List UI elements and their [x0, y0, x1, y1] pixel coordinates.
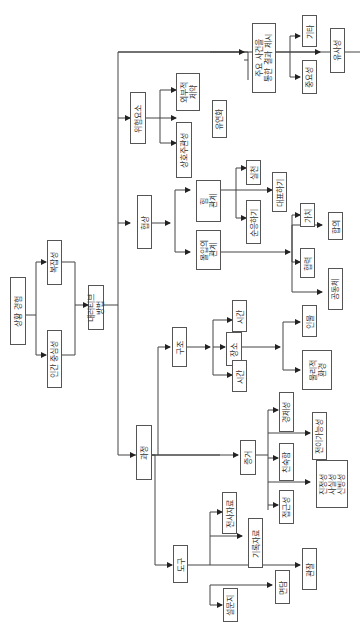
node-root: 상황 경험 [10, 277, 26, 345]
node-evidence: 증거 [240, 440, 256, 475]
node-persuasiveness: 경제성 [279, 392, 294, 432]
node-observation: 관찰 [302, 548, 317, 590]
node-person: 인물 [302, 305, 317, 337]
node-time-lower: 시간 [232, 360, 247, 392]
node-immersion-relation: 몰입의 관계 [196, 230, 221, 270]
node-structure: 구조 [172, 327, 187, 367]
node-transferability: 전이가능성 [312, 412, 327, 460]
node-community: 공동체 [328, 268, 343, 310]
node-power-relation: 힘 관계 [196, 180, 221, 222]
node-similarity: 유사성 [330, 28, 345, 73]
node-tools: 도구 [173, 545, 188, 583]
node-key-events: 주요 사건을 통한 결과 제시 [252, 23, 276, 93]
node-interdependence: 상호주관성 [176, 122, 192, 178]
node-narrative-method: 내러티브 방법 [88, 285, 104, 330]
node-authenticity: 진정성 사실성 신빙성 [316, 460, 348, 508]
node-negotiation: 협상 [137, 195, 152, 249]
node-transcript: 전사자료 [222, 492, 237, 534]
node-comply: 순응하기 [246, 200, 261, 244]
node-accessibility: 접근성 [279, 490, 294, 524]
node-interview: 면담 [275, 570, 290, 604]
node-process: 과정 [136, 425, 152, 480]
node-practice: 실천 [246, 160, 261, 185]
node-questionnaire: 설문지 [223, 588, 238, 622]
node-time-upper: 시간 [232, 300, 247, 332]
node-etc: 기타 [302, 15, 317, 47]
node-value: 가치 [300, 203, 315, 227]
node-collaboration: 협력 [300, 248, 315, 278]
node-external-constraint: 외부적 제약 [176, 73, 200, 111]
node-risk: 위험요소 [130, 92, 146, 144]
node-records: 기록자료 [248, 518, 263, 568]
node-physical-environment: 물리적 환경 [302, 350, 332, 390]
node-consensus: 합의 [328, 212, 343, 240]
node-represent: 대표하기 [272, 172, 287, 212]
node-importance: 중요성 [302, 60, 317, 94]
node-complexity: 복잡성 [47, 240, 62, 285]
node-flexibility: 유연화 [212, 100, 227, 138]
node-human-centered: 인간 중심성 [47, 330, 62, 388]
node-familiarity: 친숙함 [279, 443, 294, 481]
narrative-method-diagram: 상황 경험 복잡성 인간 중심성 내러티브 방법 위험요소 외부적 제약 유연화… [0, 0, 360, 622]
